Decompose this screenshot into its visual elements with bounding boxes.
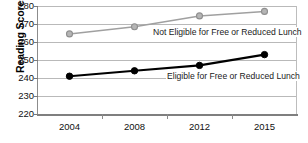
gridline [38,42,296,43]
y-axis-tick-label: 250 [10,55,34,65]
x-axis-tickmark [167,114,168,119]
series-label-not-eligible: Not Eligible for Free or Reduced Lunch [152,27,303,37]
reading-scores-line-chart: Reading Scores 280270260250240230220 Not… [0,0,308,143]
y-axis-tickmark [34,24,38,25]
y-axis-tick-label: 230 [10,91,34,101]
plot-area [37,6,297,114]
y-axis-tickmark [34,42,38,43]
gridline [38,60,296,61]
y-axis-tickmark [34,96,38,97]
gridline [38,24,296,25]
x-axis-tickmark [102,114,103,119]
x-axis-tick-label: 2008 [105,121,165,132]
y-axis-tick-label: 240 [10,73,34,83]
y-axis-tick-label: 270 [10,19,34,29]
series-label-eligible: Eligible for Free or Reduced Lunch [166,71,301,81]
y-axis-tick-label: 260 [10,37,34,47]
y-axis-tick-label: 220 [10,109,34,119]
x-axis-tick-label: 2015 [235,121,295,132]
y-axis-tickmark [34,78,38,79]
gridline-top [38,6,296,7]
x-axis-tickmark [232,114,233,119]
y-axis-tick-labels: 280270260250240230220 [8,0,34,143]
y-axis-tickmark [34,60,38,61]
x-axis-tick-label: 2012 [170,121,230,132]
gridline [38,96,296,97]
y-axis-tick-label: 280 [10,1,34,11]
x-axis-tick-label: 2004 [40,121,100,132]
